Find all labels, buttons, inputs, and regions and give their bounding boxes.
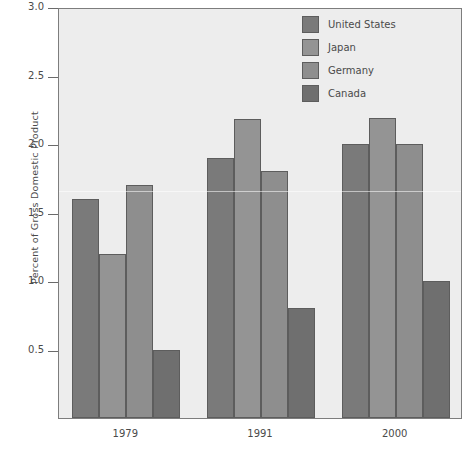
- legend-swatch-germany: [302, 62, 319, 79]
- bar-2000-canada: [423, 281, 450, 418]
- x-tick-label: 1979: [113, 428, 138, 439]
- legend-label-united-states: United States: [328, 19, 396, 30]
- legend-swatch-united-states: [302, 16, 319, 33]
- legend-item[interactable]: Germany: [302, 60, 450, 81]
- bar-1991-japan: [234, 119, 261, 418]
- y-tick-mark: [48, 8, 58, 9]
- legend-item[interactable]: Canada: [302, 83, 450, 104]
- bar-1979-canada: [153, 350, 180, 419]
- y-tick-mark: [48, 77, 58, 78]
- y-tick-label: 1.5: [0, 207, 44, 218]
- chart-legend: United States Japan Germany Canada: [302, 14, 450, 106]
- bar-2000-united-states: [342, 144, 369, 418]
- bar-1991-canada: [288, 308, 315, 418]
- legend-item[interactable]: United States: [302, 14, 450, 35]
- legend-swatch-japan: [302, 39, 319, 56]
- legend-item[interactable]: Japan: [302, 37, 450, 58]
- legend-label-canada: Canada: [328, 88, 366, 99]
- bar-1991-united-states: [207, 158, 234, 418]
- bar-2000-germany: [396, 144, 423, 418]
- legend-label-germany: Germany: [328, 65, 374, 76]
- bar-1979-germany: [126, 185, 153, 418]
- y-tick-label: 3.0: [0, 1, 44, 12]
- y-tick-mark: [48, 214, 58, 215]
- legend-label-japan: Japan: [328, 42, 356, 53]
- y-tick-mark: [48, 145, 58, 146]
- chart-figure: Percent of Gross Domestic Product 0.51.0…: [0, 0, 473, 451]
- x-tick-label: 2000: [382, 428, 407, 439]
- y-tick-label: 2.0: [0, 138, 44, 149]
- y-tick-label: 0.5: [0, 344, 44, 355]
- y-tick-mark: [48, 351, 58, 352]
- bar-1991-germany: [261, 171, 288, 418]
- legend-swatch-canada: [302, 85, 319, 102]
- y-tick-label: 2.5: [0, 70, 44, 81]
- bar-2000-japan: [369, 118, 396, 418]
- y-tick-mark: [48, 282, 58, 283]
- bar-1979-united-states: [72, 199, 99, 418]
- x-tick-label: 1991: [247, 428, 272, 439]
- bar-1979-japan: [99, 254, 126, 418]
- y-axis-title: Percent of Gross Domestic Product: [29, 68, 40, 328]
- y-tick-label: 1.0: [0, 275, 44, 286]
